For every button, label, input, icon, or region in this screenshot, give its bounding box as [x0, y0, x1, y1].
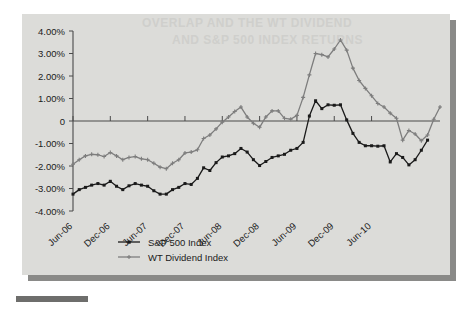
y-tick-label: -3.00%	[35, 183, 66, 194]
legend-marker	[128, 241, 131, 244]
data-point-marker	[127, 155, 131, 159]
data-point-marker	[215, 161, 218, 164]
chart-plot-area: 4.00%3.00%2.00%1.00%0-1.00%-2.00%-3.00%-…	[22, 14, 450, 275]
data-point-marker	[190, 183, 193, 186]
data-point-marker	[426, 139, 429, 142]
data-point-marker	[407, 163, 410, 166]
data-point-marker	[320, 53, 324, 57]
series-line-sp500	[73, 101, 428, 194]
data-point-marker	[264, 160, 267, 163]
data-point-marker	[383, 144, 386, 147]
x-tick-label: Dec-08	[231, 220, 261, 249]
y-tick-label: 4.00%	[38, 26, 65, 37]
data-point-marker	[152, 189, 155, 192]
y-tick-label: 0	[60, 116, 65, 127]
data-point-marker	[364, 144, 367, 147]
figure-panel: OVERLAP AND THE WT DIVIDEND AND S&P 500 …	[22, 14, 450, 275]
data-point-marker	[252, 158, 255, 161]
figure-root: OVERLAP AND THE WT DIVIDEND AND S&P 500 …	[0, 0, 469, 311]
y-tick-label: 1.00%	[38, 93, 65, 104]
data-point-marker	[327, 103, 330, 106]
y-tick-label: -4.00%	[35, 206, 66, 217]
y-tick-label: -2.00%	[35, 161, 66, 172]
data-point-marker	[389, 160, 392, 163]
data-point-marker	[103, 184, 106, 187]
data-point-marker	[208, 169, 211, 172]
data-point-marker	[96, 153, 100, 157]
data-point-marker	[159, 193, 162, 196]
data-point-marker	[233, 152, 236, 155]
data-point-marker	[134, 182, 137, 185]
data-point-marker	[308, 115, 311, 118]
data-point-marker	[183, 182, 186, 185]
x-tick-label: Jun-06	[45, 220, 74, 248]
data-point-marker	[72, 193, 75, 196]
data-point-marker	[314, 52, 318, 56]
x-tick-label: Jun-07	[120, 220, 149, 248]
data-point-marker	[165, 193, 168, 196]
data-point-marker	[345, 118, 348, 121]
data-point-marker	[189, 150, 193, 154]
y-tick-label: 2.00%	[38, 71, 65, 82]
data-point-marker	[84, 186, 87, 189]
data-point-marker	[295, 147, 298, 150]
data-point-marker	[414, 158, 417, 161]
data-point-marker	[239, 147, 242, 150]
data-point-marker	[370, 144, 373, 147]
data-point-marker	[246, 151, 249, 154]
caption-rule	[16, 296, 88, 302]
data-point-marker	[227, 154, 230, 157]
data-point-marker	[302, 141, 305, 144]
data-point-marker	[146, 185, 149, 188]
data-point-marker	[307, 73, 311, 77]
data-point-marker	[78, 188, 81, 191]
data-point-marker	[202, 166, 205, 169]
x-tick-label: Dec-09	[305, 220, 335, 249]
data-point-marker	[271, 156, 274, 159]
data-point-marker	[196, 177, 199, 180]
data-point-marker	[301, 95, 305, 99]
data-point-marker	[96, 182, 99, 185]
data-point-marker	[283, 153, 286, 156]
data-point-marker	[351, 132, 354, 135]
legend-marker	[127, 255, 131, 259]
legend-label: WT Dividend Index	[148, 252, 228, 263]
y-tick-label: 3.00%	[38, 48, 65, 59]
x-tick-label: Jun-10	[344, 220, 373, 248]
data-point-marker	[289, 149, 292, 152]
data-point-marker	[376, 145, 379, 148]
data-point-marker	[258, 164, 261, 167]
data-point-marker	[320, 107, 323, 110]
x-tick-label: Jun-09	[269, 220, 298, 248]
data-point-marker	[333, 104, 336, 107]
data-point-marker	[139, 157, 143, 161]
data-point-marker	[115, 185, 118, 188]
data-point-marker	[109, 180, 112, 183]
data-point-marker	[221, 156, 224, 159]
data-point-marker	[121, 188, 124, 191]
data-point-marker	[127, 184, 130, 187]
data-point-marker	[90, 184, 93, 187]
y-tick-label: -1.00%	[35, 138, 66, 149]
data-point-marker	[401, 156, 404, 159]
data-point-marker	[133, 155, 137, 159]
data-point-marker	[358, 141, 361, 144]
data-point-marker	[177, 186, 180, 189]
legend-label: S&P 500 Index	[148, 237, 211, 248]
data-point-marker	[171, 188, 174, 191]
data-point-marker	[339, 103, 342, 106]
data-point-marker	[395, 152, 398, 155]
line-chart: 4.00%3.00%2.00%1.00%0-1.00%-2.00%-3.00%-…	[22, 14, 450, 275]
data-point-marker	[140, 184, 143, 187]
data-point-marker	[90, 152, 94, 156]
x-tick-label: Dec-06	[82, 220, 112, 249]
data-point-marker	[277, 154, 280, 157]
data-point-marker	[420, 149, 423, 152]
data-point-marker	[314, 99, 317, 102]
